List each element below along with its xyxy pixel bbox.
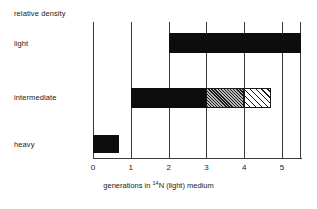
band-intermediate-segment-0: [131, 88, 207, 108]
x-axis-title-suffix: N (light) medium: [159, 181, 214, 190]
y-category-label-light: light: [14, 40, 28, 48]
x-axis-line: [93, 158, 302, 159]
x-axis-title-prefix: generations in: [103, 181, 152, 190]
meselson-stahl-density-chart: relative density light intermediate heav…: [0, 0, 317, 209]
x-axis-title-superscript: 14: [153, 180, 159, 186]
x-tick-label-5: 5: [275, 164, 289, 172]
plot-area: [93, 22, 301, 159]
x-tick-label-3: 3: [199, 164, 213, 172]
band-intermediate-segment-1: [206, 88, 244, 108]
x-tick-label-1: 1: [124, 164, 138, 172]
band-light-segment-0: [169, 33, 301, 53]
x-tick-label-2: 2: [162, 164, 176, 172]
x-tick-label-0: 0: [86, 164, 100, 172]
x-tick-label-4: 4: [237, 164, 251, 172]
band-light: [93, 33, 301, 53]
y-axis-title: relative density: [14, 10, 66, 18]
y-category-label-heavy: heavy: [14, 141, 35, 149]
band-intermediate-segment-2: [244, 88, 270, 108]
band-heavy-segment-0: [93, 135, 119, 153]
band-intermediate: [93, 88, 301, 108]
band-heavy: [93, 135, 301, 153]
x-axis-title: generations in 14N (light) medium: [0, 182, 317, 190]
y-category-label-intermediate: intermediate: [14, 94, 56, 102]
